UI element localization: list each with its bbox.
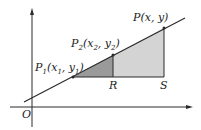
label-p2: P2(x2, y2) xyxy=(70,37,120,52)
label-r: R xyxy=(108,79,117,92)
label-p1: P1(x1, y1) xyxy=(34,61,84,76)
y-axis-arrow-icon xyxy=(30,8,34,15)
label-p: P(x, y) xyxy=(132,11,168,24)
x-axis-arrow-icon xyxy=(186,105,193,109)
point-p xyxy=(163,27,166,30)
label-origin: O xyxy=(22,108,31,121)
label-s: S xyxy=(160,79,168,92)
point-p1 xyxy=(72,76,75,79)
slope-diagram: P1(x1, y1) P2(x2, y2) P(x, y) R S O xyxy=(0,0,201,130)
point-p2 xyxy=(112,54,115,57)
